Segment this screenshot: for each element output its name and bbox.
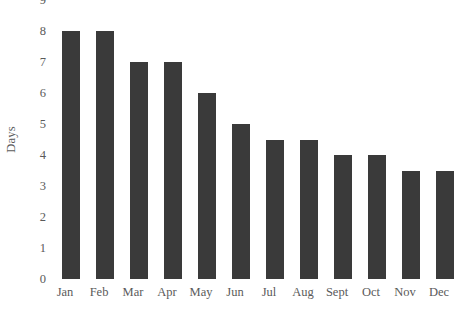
bar-column xyxy=(192,0,226,279)
x-axis-tick-labels: JanFebMarAprMayJunJulAugSeptOctNovDec xyxy=(50,283,455,305)
bar xyxy=(198,93,216,279)
y-axis-title: Days xyxy=(0,0,22,279)
y-axis-tick: 4 xyxy=(22,149,46,162)
bar xyxy=(334,155,352,279)
bar-column xyxy=(396,0,430,279)
bar xyxy=(436,171,454,280)
bar-column xyxy=(158,0,192,279)
bar xyxy=(232,124,250,279)
y-axis-tick: 5 xyxy=(22,118,46,131)
bar-column xyxy=(362,0,396,279)
bar xyxy=(164,62,182,279)
bar xyxy=(266,140,284,280)
y-axis-tick: 1 xyxy=(22,242,46,255)
y-axis-tick: 0 xyxy=(22,273,46,286)
bar-column xyxy=(124,0,158,279)
bar xyxy=(402,171,420,280)
y-axis-tick: 3 xyxy=(22,180,46,193)
bar-column xyxy=(56,0,90,279)
bar xyxy=(96,31,114,279)
bar-column xyxy=(260,0,294,279)
y-axis-tick: 9 xyxy=(22,0,46,6)
bar-column xyxy=(90,0,124,279)
x-axis-tick: Dec xyxy=(419,283,459,302)
plot-area xyxy=(50,0,455,279)
bar xyxy=(300,140,318,280)
y-axis-tick: 8 xyxy=(22,25,46,38)
y-axis-tick-labels: 9876543210 xyxy=(22,0,46,317)
bar-column xyxy=(430,0,463,279)
y-axis-tick: 2 xyxy=(22,211,46,224)
bar-column xyxy=(294,0,328,279)
bar xyxy=(62,31,80,279)
bar-chart-figure: Days 9876543210 JanFebMarAprMayJunJulAug… xyxy=(0,0,463,317)
bar-column xyxy=(328,0,362,279)
bar xyxy=(368,155,386,279)
y-axis-tick: 7 xyxy=(22,56,46,69)
y-axis-tick: 6 xyxy=(22,87,46,100)
bar-column xyxy=(226,0,260,279)
y-axis-title-label: Days xyxy=(4,126,19,153)
bar xyxy=(130,62,148,279)
